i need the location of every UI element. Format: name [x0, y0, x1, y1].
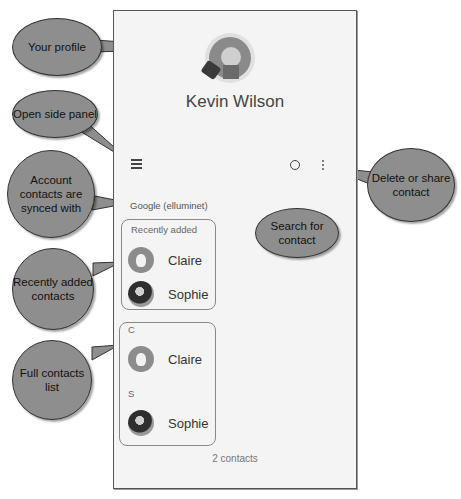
claire-avatar-icon	[128, 247, 154, 273]
recently-added-header: Recently added	[131, 224, 197, 235]
contact-row-claire-recent[interactable]: Claire	[128, 247, 202, 273]
contact-row-sophie[interactable]: Sophie	[128, 410, 208, 436]
avatar-face	[221, 47, 241, 67]
contact-name: Sophie	[168, 416, 208, 431]
hamburger-menu-icon[interactable]	[131, 159, 142, 169]
profile-avatar[interactable]	[205, 33, 255, 83]
callout-full-list: Full contacts list	[12, 340, 92, 420]
contact-name: Sophie	[168, 287, 208, 302]
callout-open-side-panel: Open side panel	[12, 90, 98, 138]
section-letter-c: C	[128, 324, 135, 335]
callout-recently-added: Recently added contacts	[12, 248, 94, 330]
claire-avatar-icon	[128, 346, 154, 372]
section-letter-s: S	[128, 388, 134, 399]
sophie-penguin-avatar-icon	[128, 410, 154, 436]
contact-row-sophie-recent[interactable]: Sophie	[128, 281, 208, 307]
profile-name: Kevin Wilson	[113, 92, 357, 112]
callout-search: Search for contact	[255, 208, 339, 258]
callout-your-profile: Your profile	[12, 18, 102, 76]
avatar-body	[223, 65, 239, 79]
contact-name: Claire	[168, 352, 202, 367]
contact-name: Claire	[168, 253, 202, 268]
account-label[interactable]: Google (elluminet)	[130, 200, 208, 211]
contacts-count: 2 contacts	[113, 453, 357, 464]
more-vert-icon[interactable]	[321, 160, 325, 172]
search-icon[interactable]	[290, 160, 300, 170]
contact-row-claire[interactable]: Claire	[128, 346, 202, 372]
callout-delete-share: Delete or share contact	[367, 148, 455, 222]
sophie-penguin-avatar-icon	[128, 281, 154, 307]
callout-account-synced: Account contacts are synced with	[7, 150, 95, 238]
